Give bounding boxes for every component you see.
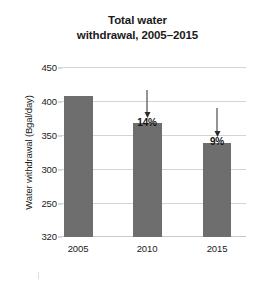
scan-artifact	[38, 272, 39, 279]
gridline-450: 450	[62, 67, 246, 68]
y-tick-label-300: 300	[41, 164, 57, 175]
chart-title: Total water withdrawal, 2005–2015	[30, 13, 245, 42]
annotation-label-2010: 14%	[137, 117, 156, 128]
plot-area: 450 400 350 300 250 320 14% 9%	[62, 67, 246, 237]
down-arrow-2010-icon	[147, 90, 148, 113]
y-tick-label-350: 350	[41, 130, 57, 141]
down-arrow-2015-icon	[217, 108, 218, 132]
x-tick-label-2015: 2015	[207, 243, 228, 254]
y-tick-label-450: 450	[41, 62, 57, 73]
y-tick-label-baseline: 320	[41, 231, 57, 242]
chart-title-line-2: withdrawal, 2005–2015	[30, 28, 245, 43]
y-axis-title: Water withdrawal (Bgal/day)	[23, 63, 34, 243]
bar-2005	[64, 96, 93, 237]
chart-title-line-1: Total water	[30, 13, 245, 28]
bar-2015	[203, 143, 231, 237]
x-tick-label-2005: 2005	[68, 243, 89, 254]
y-tick-label-400: 400	[41, 96, 57, 107]
annotation-label-2015: 9%	[210, 136, 224, 147]
bar-2010	[133, 123, 162, 237]
y-tick-label-250: 250	[41, 198, 57, 209]
chart-figure: Total water withdrawal, 2005–2015 Water …	[0, 0, 261, 283]
x-tick-label-2010: 2010	[137, 243, 158, 254]
